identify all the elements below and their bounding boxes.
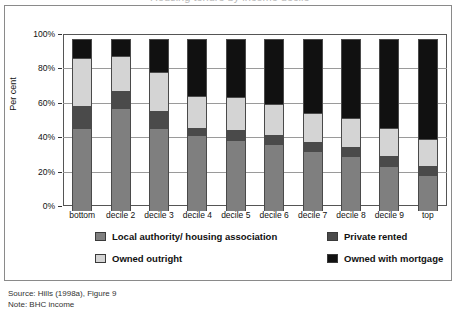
x-tick-label: decile 8 [332,210,370,220]
bar-segment [380,128,398,156]
legend-swatch-icon [327,254,338,263]
bar-segment [73,106,91,128]
x-tick-label: decile 6 [255,210,293,220]
source-line: Source: Hills (1998a), Figure 9 [8,288,117,299]
bar-segment [265,144,283,211]
bar-segment [188,39,206,96]
bar-segment [265,39,283,104]
y-tick-mark [58,206,62,207]
x-tick-label: decile 2 [101,210,139,220]
bar-segment [419,166,437,175]
x-tick-label: bottom [63,210,101,220]
bar-segment [419,139,437,167]
chart-legend: Local authority/ housing associationPriv… [27,231,435,273]
bar-segment [150,128,168,211]
bar-decile-6[interactable] [264,39,284,211]
bar-decile-9[interactable] [379,39,399,211]
bar-segment [73,58,91,106]
y-tick-label: 60% [25,99,55,108]
bar-segment [342,39,360,118]
legend-label: Private rented [344,231,407,242]
bar-top[interactable] [418,39,438,211]
bar-decile-8[interactable] [341,39,361,211]
y-axis-label: Per cent [8,77,18,111]
bar-segment [227,39,245,97]
bar-decile-4[interactable] [187,39,207,211]
bar-decile-5[interactable] [226,39,246,211]
bar-segment [304,39,322,113]
legend-label: Local authority/ housing association [112,231,277,242]
bar-segment [112,108,130,211]
x-tick-label: decile 7 [293,210,331,220]
bar-segment [188,128,206,135]
bar-segment [73,39,91,58]
y-tick-label: 20% [25,168,55,177]
bar-segment [227,97,245,130]
legend-swatch-icon [95,232,106,241]
bar-segment [112,56,130,90]
y-tick-mark [58,68,62,69]
x-tick-label: decile 5 [217,210,255,220]
legend-item[interactable]: Owned outright [95,253,182,264]
legend-item[interactable]: Local authority/ housing association [95,231,277,242]
bar-segment [419,175,437,211]
bar-segment [112,91,130,108]
bar-decile-2[interactable] [111,39,131,211]
figure-notes: Source: Hills (1998a), Figure 9 Note: BH… [8,288,117,310]
bar-segment [73,128,91,211]
bar-segment [419,39,437,139]
bar-segment [150,111,168,128]
bar-segment [342,147,360,156]
plot-area: 0%20%40%60%80%100% bottomdecile 2decile … [63,34,447,211]
bar-segment [304,151,322,211]
bar-segment [265,104,283,135]
y-tick-label: 40% [25,133,55,142]
x-tick-label: decile 9 [370,210,408,220]
y-tick-mark [58,103,62,104]
x-tick-label: decile 3 [140,210,178,220]
legend-swatch-icon [327,232,338,241]
bar-bottom[interactable] [72,39,92,211]
bar-segment [188,135,206,211]
cropped-title-text: Housing tenure by income decile [150,0,310,3]
bar-segment [150,39,168,72]
legend-item[interactable]: Private rented [327,231,407,242]
y-tick-label: 100% [25,30,55,39]
bar-segment [188,96,206,129]
y-tick-label: 80% [25,64,55,73]
y-tick-mark [58,137,62,138]
bar-segment [150,72,168,112]
x-tick-label: top [409,210,447,220]
y-tick-mark [58,172,62,173]
legend-label: Owned outright [112,253,182,264]
bar-decile-7[interactable] [303,39,323,211]
bar-segment [265,135,283,144]
bar-segment [304,142,322,151]
y-tick-label: 0% [25,202,55,211]
bar-segment [380,39,398,128]
bar-segment [227,140,245,211]
bar-segment [227,130,245,140]
legend-label: Owned with mortgage [344,253,443,264]
y-tick-mark [58,34,62,35]
bar-decile-3[interactable] [149,39,169,211]
note-line: Note: BHC income [8,299,117,310]
figure-frame: Per cent 0%20%40%60%80%100% bottomdecile… [4,5,452,281]
bar-segment [342,118,360,147]
bar-segment [112,39,130,56]
bar-segment [342,156,360,211]
legend-swatch-icon [95,254,106,263]
bar-segment [380,156,398,166]
x-tick-label: decile 4 [178,210,216,220]
bar-segment [304,113,322,142]
legend-item[interactable]: Owned with mortgage [327,253,443,264]
bar-segment [380,166,398,211]
